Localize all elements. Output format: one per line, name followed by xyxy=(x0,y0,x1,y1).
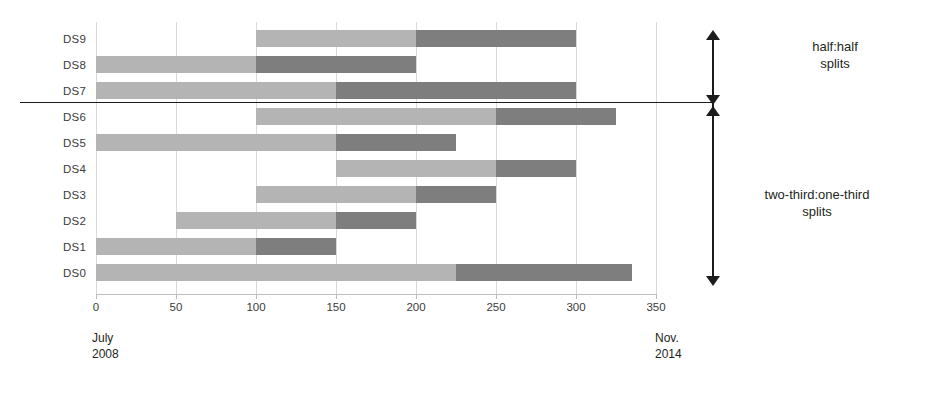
bar-segment-light xyxy=(96,264,456,281)
bar-row: DS3 xyxy=(96,182,656,208)
bar-segment-dark xyxy=(416,186,496,203)
bar-segment-dark xyxy=(256,56,416,73)
arrow-up-icon xyxy=(706,106,720,116)
x-tick xyxy=(176,294,177,299)
bar-ds9 xyxy=(256,30,576,47)
x-tick xyxy=(656,294,657,299)
y-axis-label-ds6: DS6 xyxy=(63,104,86,130)
bar-segment-dark xyxy=(416,30,576,47)
plot-area: DS9DS8DS7DS6DS5DS4DS3DS2DS1DS0 xyxy=(96,22,656,294)
y-axis-label-ds5: DS5 xyxy=(63,130,86,156)
x-tick xyxy=(336,294,337,299)
arrow-down-icon xyxy=(706,276,720,286)
x-tick-label: 300 xyxy=(566,301,585,313)
x-axis xyxy=(96,294,656,295)
y-axis-label-ds1: DS1 xyxy=(63,234,86,260)
bar-row: DS6 xyxy=(96,104,656,130)
x-tick-label: 350 xyxy=(646,301,665,313)
group-divider-line xyxy=(20,102,712,103)
arrow-up-icon xyxy=(706,30,720,40)
axis-caption-start-line2: 2008 xyxy=(92,346,119,362)
bar-ds6 xyxy=(256,108,616,125)
bar-row: DS9 xyxy=(96,26,656,52)
axis-caption-start-line1: July xyxy=(92,330,119,346)
bar-segment-light xyxy=(176,212,336,229)
bar-segment-dark xyxy=(456,264,632,281)
annotation-half-half: half:half splits xyxy=(760,38,910,72)
bar-segment-dark xyxy=(336,134,456,151)
bar-row: DS7 xyxy=(96,78,656,104)
bar-segment-dark xyxy=(496,108,616,125)
brace-two-third-one-third xyxy=(712,104,714,284)
bar-segment-dark xyxy=(336,212,416,229)
gridline xyxy=(656,22,657,294)
axis-caption-end: Nov. 2014 xyxy=(655,330,682,362)
y-axis-label-ds8: DS8 xyxy=(63,52,86,78)
bar-segment-light xyxy=(96,56,256,73)
x-tick xyxy=(256,294,257,299)
bar-segment-light xyxy=(336,160,496,177)
bar-ds4 xyxy=(336,160,576,177)
annotation-two-third-line2: splits xyxy=(722,203,912,220)
bar-row: DS1 xyxy=(96,234,656,260)
y-axis-label-ds3: DS3 xyxy=(63,182,86,208)
bar-segment-dark xyxy=(256,238,336,255)
bar-ds1 xyxy=(96,238,336,255)
bar-row: DS5 xyxy=(96,130,656,156)
y-axis-label-ds7: DS7 xyxy=(63,78,86,104)
bar-ds7 xyxy=(96,82,576,99)
bar-segment-light xyxy=(256,30,416,47)
x-tick-label: 200 xyxy=(406,301,425,313)
x-tick-label: 50 xyxy=(170,301,183,313)
axis-caption-end-line2: 2014 xyxy=(655,346,682,362)
axis-caption-start: July 2008 xyxy=(92,330,119,362)
bar-segment-light xyxy=(256,186,416,203)
axis-caption-end-line1: Nov. xyxy=(655,330,682,346)
bar-segment-light xyxy=(96,134,336,151)
bar-segment-light xyxy=(96,238,256,255)
x-tick-label: 100 xyxy=(246,301,265,313)
bar-row: DS2 xyxy=(96,208,656,234)
bar-row: DS8 xyxy=(96,52,656,78)
bar-ds8 xyxy=(96,56,416,73)
brace-half-half xyxy=(712,36,714,104)
y-axis-label-ds2: DS2 xyxy=(63,208,86,234)
bar-ds2 xyxy=(176,212,416,229)
x-tick-label: 0 xyxy=(93,301,99,313)
bar-segment-dark xyxy=(496,160,576,177)
bar-ds5 xyxy=(96,134,456,151)
gantt-split-chart: DS9DS8DS7DS6DS5DS4DS3DS2DS1DS0 050100150… xyxy=(0,0,929,395)
annotation-two-third-one-third: two-third:one-third splits xyxy=(722,186,912,220)
bar-row: DS0 xyxy=(96,260,656,286)
y-axis-label-ds9: DS9 xyxy=(63,26,86,52)
annotation-two-third-line1: two-third:one-third xyxy=(722,186,912,203)
x-tick xyxy=(416,294,417,299)
x-tick-label: 150 xyxy=(326,301,345,313)
x-tick xyxy=(496,294,497,299)
bar-segment-dark xyxy=(336,82,576,99)
x-tick xyxy=(96,294,97,299)
y-axis-label-ds0: DS0 xyxy=(63,260,86,286)
bar-ds0 xyxy=(96,264,632,281)
bar-row: DS4 xyxy=(96,156,656,182)
annotation-half-half-line2: splits xyxy=(760,55,910,72)
bar-segment-light xyxy=(96,82,336,99)
y-axis-label-ds4: DS4 xyxy=(63,156,86,182)
x-tick xyxy=(576,294,577,299)
bar-ds3 xyxy=(256,186,496,203)
x-tick-label: 250 xyxy=(486,301,505,313)
annotation-half-half-line1: half:half xyxy=(760,38,910,55)
bar-segment-light xyxy=(256,108,496,125)
